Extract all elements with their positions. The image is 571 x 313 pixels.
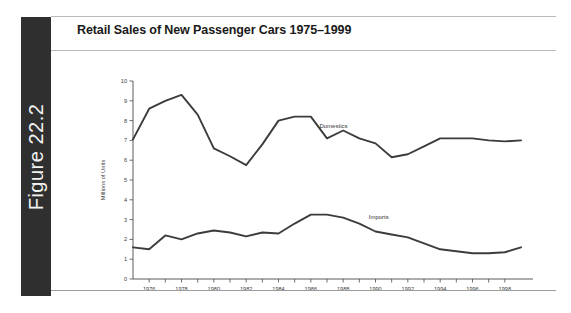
y-tick-label: 9: [124, 98, 127, 104]
x-axis-ticks: [149, 279, 505, 283]
chart-plot-area: 012345678910 197619781980198219841986198…: [51, 54, 556, 290]
series-label-domestics: Domestics: [319, 123, 347, 129]
divider-top: [51, 16, 556, 17]
y-axis-tick-labels: 012345678910: [121, 78, 127, 282]
chart-title: Retail Sales of New Passenger Cars 1975–…: [77, 23, 351, 37]
axis-lines: [133, 81, 533, 279]
figure-panel: Retail Sales of New Passenger Cars 1975–…: [51, 14, 556, 297]
y-axis-ticks: [130, 81, 134, 279]
y-tick-label: 10: [121, 78, 127, 84]
line-chart-svg: 012345678910 197619781980198219841986198…: [51, 54, 556, 290]
y-tick-label: 5: [124, 177, 127, 183]
figure-number-label: Figure 22.2: [25, 103, 48, 210]
y-tick-label: 7: [124, 137, 127, 143]
series-label-imports: Imports: [369, 214, 389, 220]
chart-series: [133, 95, 521, 253]
chart-axes: 012345678910 197619781980198219841986198…: [100, 78, 533, 290]
y-tick-label: 0: [124, 276, 127, 282]
divider-under-title: [51, 50, 556, 51]
y-tick-label: 8: [124, 118, 127, 124]
y-tick-label: 3: [124, 217, 127, 223]
y-tick-label: 2: [124, 236, 127, 242]
y-axis-title: Millions of Units: [100, 160, 106, 201]
series-line-imports: [133, 215, 521, 254]
y-tick-label: 4: [124, 197, 127, 203]
y-tick-label: 6: [124, 157, 127, 163]
divider-bottom: [51, 290, 556, 291]
series-line-domestics: [133, 95, 521, 165]
y-tick-label: 1: [124, 256, 127, 262]
figure-number-tab: Figure 22.2: [21, 17, 51, 296]
figure-card: Figure 22.2 Retail Sales of New Passenge…: [0, 0, 571, 313]
